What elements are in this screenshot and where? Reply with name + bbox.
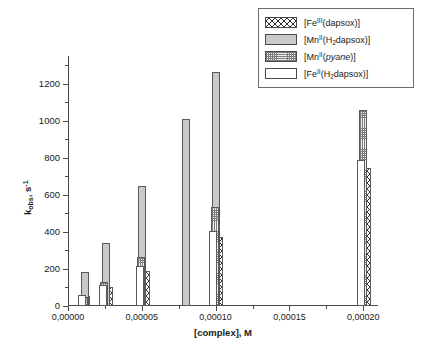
y-tick-label: 600 bbox=[44, 190, 60, 199]
x-axis-title: [complex], M bbox=[68, 327, 378, 338]
x-tick-label: 0,00015 bbox=[259, 312, 319, 322]
y-axis-title-subscript: obs bbox=[27, 197, 34, 209]
x-tick-minor bbox=[179, 306, 180, 309]
x-tick-major bbox=[68, 306, 69, 311]
legend-swatch-crosshatch-icon bbox=[265, 17, 297, 28]
x-tick-major bbox=[216, 306, 217, 311]
x-tick-label: 0,00010 bbox=[186, 312, 246, 322]
bar bbox=[209, 231, 217, 306]
x-tick-minor bbox=[253, 306, 254, 309]
legend-label-fe3-dapsox: [FeIII(dapsox)] bbox=[304, 17, 360, 28]
x-tick-label: 0,00005 bbox=[112, 312, 172, 322]
legend-item-fe2-h2dapsox[interactable]: [FeII(H2dapsox)] bbox=[265, 65, 407, 82]
x-tick-major bbox=[289, 306, 290, 311]
y-tick-label: 0 bbox=[55, 301, 60, 310]
legend-item-mn2-h2dapsox[interactable]: [MnII(H2dapsox)] bbox=[265, 31, 407, 48]
legend-swatch-white-icon bbox=[265, 68, 297, 79]
bar bbox=[136, 266, 144, 306]
bar bbox=[78, 295, 86, 306]
x-tick-minor bbox=[326, 306, 327, 309]
x-tick-major bbox=[142, 306, 143, 311]
y-tick-label: 1200 bbox=[39, 79, 60, 88]
y-tick-label: 1000 bbox=[39, 116, 60, 125]
legend-swatch-solid-gray-icon bbox=[265, 34, 297, 45]
x-tick-minor bbox=[105, 306, 106, 309]
y-axis-title-tail: , s bbox=[22, 187, 33, 198]
legend-label-fe2-h2dapsox: [FeII(H2dapsox)] bbox=[304, 68, 368, 80]
x-tick-major bbox=[363, 306, 364, 311]
y-axis-title: kobs, s-1 bbox=[22, 201, 34, 215]
y-tick-label: 200 bbox=[44, 264, 60, 273]
y-tick-label: 800 bbox=[44, 153, 60, 162]
chart-figure: 020040060080010001200 0,000000,000050,00… bbox=[0, 0, 422, 348]
legend-item-fe3-dapsox[interactable]: [FeIII(dapsox)] bbox=[265, 14, 407, 31]
plot-area bbox=[68, 56, 378, 306]
bar bbox=[357, 160, 365, 306]
legend-swatch-stipple-icon bbox=[265, 51, 297, 62]
y-tick-label: 400 bbox=[44, 227, 60, 236]
bar bbox=[182, 119, 190, 306]
bar bbox=[99, 285, 107, 306]
legend-label-mn2-pyane: [MnII(pyane)] bbox=[304, 51, 356, 62]
legend-item-mn2-pyane[interactable]: [MnII(pyane)] bbox=[265, 48, 407, 65]
y-axis-title-superscript: -1 bbox=[22, 180, 29, 186]
x-tick-label: 0,00020 bbox=[333, 312, 393, 322]
x-tick-label: 0,00000 bbox=[38, 312, 98, 322]
legend-label-mn2-h2dapsox: [MnII(H2dapsox)] bbox=[304, 34, 370, 46]
y-axis-title-base: k bbox=[22, 210, 33, 215]
chart-legend: [FeIII(dapsox)] [MnII(H2dapsox)] [MnII(p… bbox=[258, 8, 414, 88]
